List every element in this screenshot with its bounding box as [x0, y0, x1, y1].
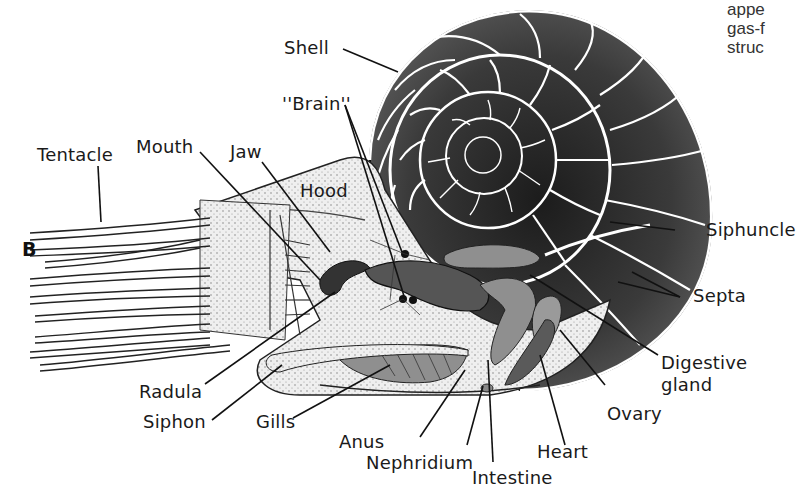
label-gills: Gills: [256, 413, 295, 431]
label-tentacle: Tentacle: [37, 146, 113, 164]
label-siphuncle: Siphuncle: [706, 221, 796, 239]
label-digestive-gland: Digestive gland: [661, 352, 747, 396]
label-shell: Shell: [284, 39, 329, 57]
label-brain: ''Brain'': [282, 95, 351, 113]
nautilus-anatomy-diagram: appe gas-f struc B Shell ''Brain'' Tenta…: [0, 0, 802, 492]
label-siphon: Siphon: [143, 413, 206, 431]
label-mouth: Mouth: [136, 138, 193, 156]
label-digestive-gland-line1: Digestive: [661, 352, 747, 374]
caption-fragment: appe gas-f struc: [727, 0, 765, 57]
label-digestive-gland-line2: gland: [661, 374, 747, 396]
label-nephridium: Nephridium: [366, 454, 473, 472]
label-intestine: Intestine: [472, 469, 553, 487]
label-jaw: Jaw: [230, 143, 262, 161]
label-hood: Hood: [300, 182, 348, 200]
label-ovary: Ovary: [607, 405, 662, 423]
caption-line: appe: [727, 0, 765, 19]
label-radula: Radula: [139, 383, 202, 401]
panel-letter: B: [22, 238, 36, 260]
label-septa: Septa: [693, 287, 746, 305]
diagram-artwork: [0, 0, 802, 492]
caption-line: gas-f: [727, 19, 765, 38]
label-anus: Anus: [339, 433, 384, 451]
label-heart: Heart: [537, 443, 588, 461]
caption-line: struc: [727, 38, 765, 57]
